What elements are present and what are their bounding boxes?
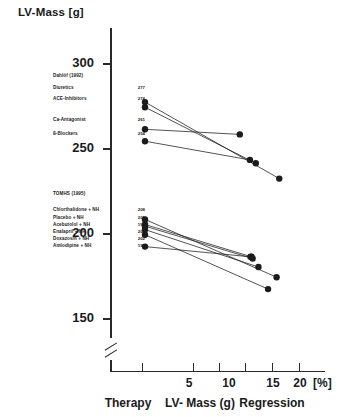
data-point-start bbox=[142, 104, 148, 110]
data-point-start bbox=[142, 138, 148, 144]
chart-root: LV-Mass [g] 300 250 200 150 5 10 15 20 [… bbox=[0, 0, 339, 417]
data-point-end bbox=[255, 264, 261, 270]
data-point-end bbox=[249, 255, 255, 261]
series-line bbox=[145, 141, 250, 160]
data-point-end bbox=[253, 160, 259, 166]
data-point-start bbox=[142, 126, 148, 132]
data-point-start bbox=[142, 243, 148, 249]
data-point-end bbox=[237, 131, 243, 137]
data-point-start bbox=[142, 232, 148, 238]
data-point-end bbox=[276, 175, 282, 181]
data-point-end bbox=[265, 286, 271, 292]
series-line bbox=[145, 102, 279, 179]
plot-area bbox=[0, 0, 339, 417]
series-layer bbox=[142, 99, 283, 292]
data-point-end bbox=[273, 274, 279, 280]
data-point-end bbox=[247, 157, 253, 163]
series-line bbox=[145, 129, 240, 134]
series-line bbox=[145, 226, 253, 258]
